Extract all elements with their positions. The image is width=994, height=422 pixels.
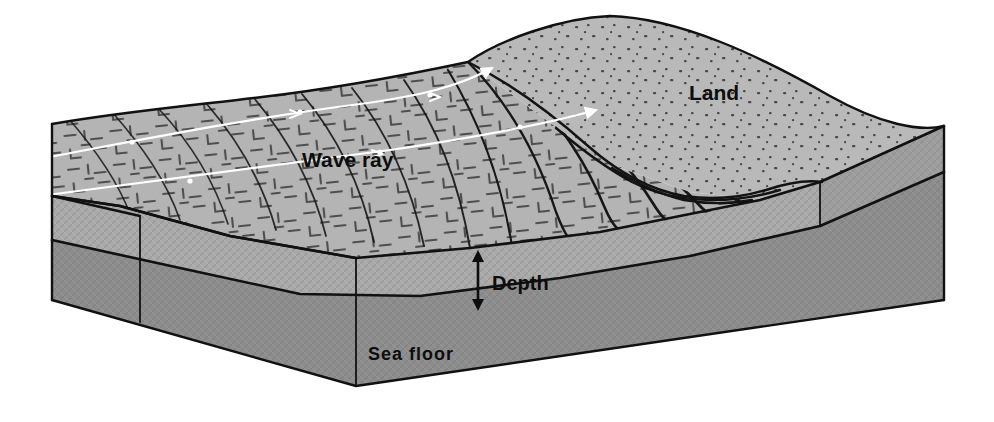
label-depth: Depth bbox=[492, 272, 549, 294]
label-sea-floor: Sea floor bbox=[368, 344, 454, 364]
wave-refraction-block-diagram: Land Wave ray Depth Sea floor bbox=[0, 0, 994, 422]
label-wave-ray: Wave ray bbox=[302, 148, 394, 171]
label-land: Land bbox=[689, 81, 739, 104]
figure-canvas: Land Wave ray Depth Sea floor bbox=[0, 0, 994, 422]
